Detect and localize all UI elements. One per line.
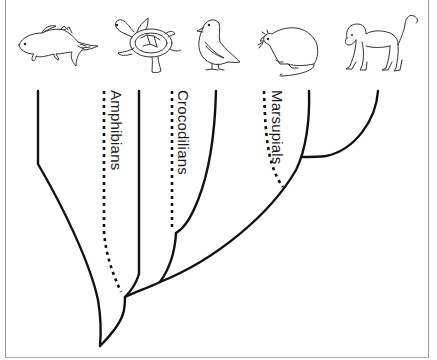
root-branch — [100, 297, 125, 346]
primate-lineage — [301, 91, 378, 157]
crocodilians-label: Crocodilians — [175, 90, 192, 175]
turtle-lineage — [125, 91, 139, 297]
cladogram-tree — [0, 0, 437, 360]
amphibians-label: Amphibians — [108, 90, 125, 170]
archosaur-stem — [160, 233, 176, 282]
marsupials-label: Marsupials — [269, 90, 286, 165]
fish-lineage — [38, 91, 101, 346]
